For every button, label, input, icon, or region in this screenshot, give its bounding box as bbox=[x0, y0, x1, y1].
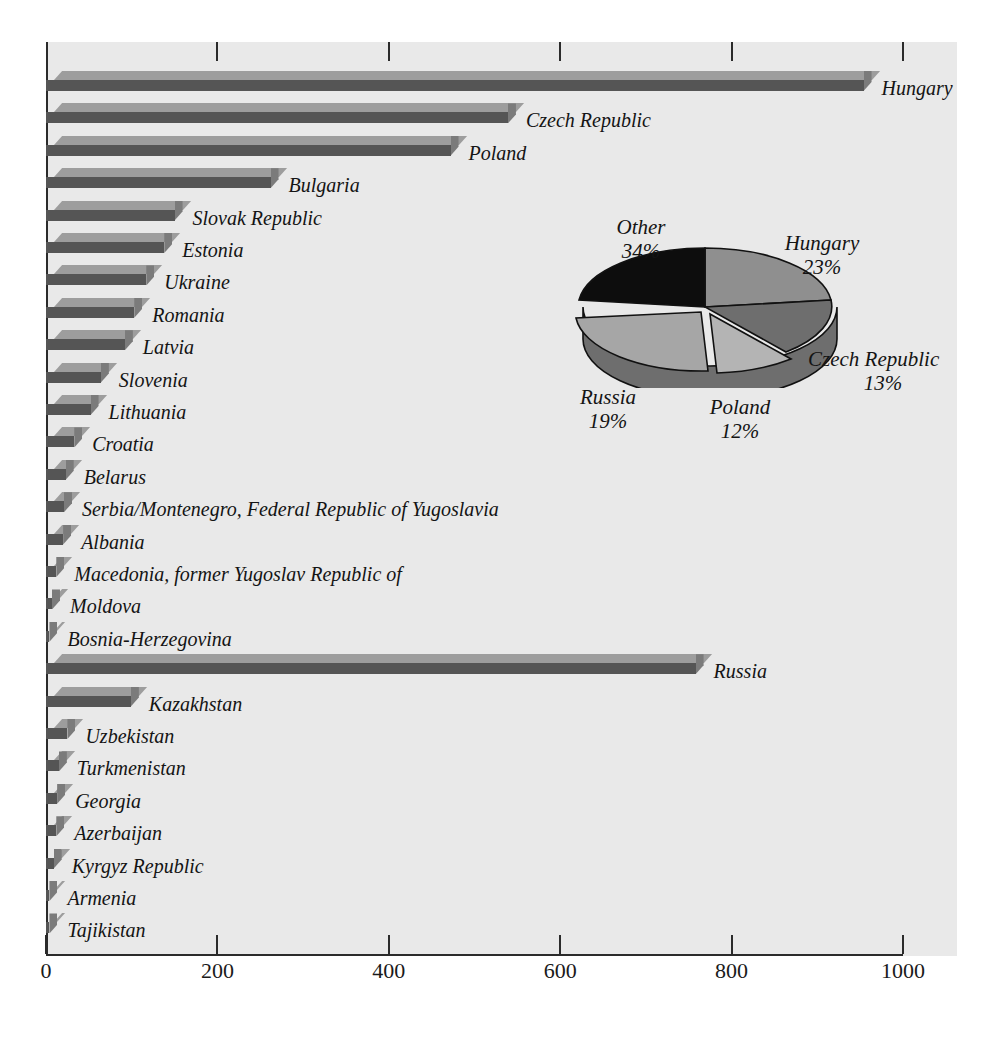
bar-kazakhstan bbox=[46, 687, 139, 707]
pie-label-hungary-name: Hungary bbox=[785, 231, 860, 255]
bar-label-latvia: Latvia bbox=[143, 336, 194, 359]
bar-front-face bbox=[46, 274, 146, 285]
bar-label-bulgaria: Bulgaria bbox=[289, 174, 360, 197]
x-tick-top-600 bbox=[559, 42, 561, 61]
bar-side-face bbox=[451, 136, 459, 156]
pie-label-hungary-pct: 23% bbox=[803, 255, 842, 279]
bar-russia bbox=[46, 654, 704, 674]
bar-side-face bbox=[696, 654, 704, 674]
bar-belarus bbox=[46, 460, 74, 480]
pie-label-other: Other 34% bbox=[586, 216, 696, 263]
pie-label-russia: Russia 19% bbox=[548, 386, 668, 433]
bar-front-face bbox=[46, 307, 134, 318]
bar-front-face bbox=[46, 242, 164, 253]
bar-albania bbox=[46, 525, 71, 545]
bar-front-face bbox=[46, 566, 56, 577]
bar-label-tajikistan: Tajikistan bbox=[67, 919, 145, 942]
bar-side-face bbox=[101, 363, 109, 383]
bar-label-slovenia: Slovenia bbox=[119, 369, 188, 392]
pie-label-poland: Poland 12% bbox=[680, 396, 800, 443]
bar-front-face bbox=[46, 825, 56, 836]
bar-bosnia-herzegovina bbox=[46, 622, 57, 642]
bar-side-face bbox=[175, 201, 183, 221]
bar-front-face bbox=[46, 210, 175, 221]
bar-front-face bbox=[46, 890, 49, 901]
pie-label-russia-pct: 19% bbox=[589, 409, 628, 433]
bar-front-face bbox=[46, 501, 64, 512]
x-tick-bottom-600 bbox=[559, 935, 561, 954]
bar-serbia-montenegro-federal-republic-of-yugoslavia bbox=[46, 492, 72, 512]
bar-label-macedonia-former-yugoslav-republic-of: Macedonia, former Yugoslav Republic of bbox=[74, 563, 402, 586]
bar-top-face bbox=[54, 654, 712, 663]
bar-side-face bbox=[49, 881, 57, 901]
x-tick-top-1000 bbox=[902, 42, 904, 61]
x-tick-label-800: 800 bbox=[715, 958, 748, 984]
bar-side-face bbox=[49, 913, 57, 933]
bar-moldova bbox=[46, 589, 60, 609]
bar-top-face bbox=[54, 168, 287, 177]
pie-label-poland-pct: 12% bbox=[721, 419, 760, 443]
bar-front-face bbox=[46, 80, 864, 91]
x-tick-top-800 bbox=[731, 42, 733, 61]
bar-side-face bbox=[146, 265, 154, 285]
x-axis-line bbox=[46, 954, 903, 956]
bar-macedonia-former-yugoslav-republic-of bbox=[46, 557, 64, 577]
bar-top-face bbox=[54, 103, 524, 112]
bar-front-face bbox=[46, 922, 49, 933]
bar-front-face bbox=[46, 177, 271, 188]
bar-front-face bbox=[46, 404, 91, 415]
bar-estonia bbox=[46, 233, 172, 253]
bar-side-face bbox=[67, 719, 75, 739]
bar-croatia bbox=[46, 427, 82, 447]
pie-label-czech-pct: 13% bbox=[808, 372, 958, 396]
bar-label-belarus: Belarus bbox=[84, 466, 146, 489]
bar-georgia bbox=[46, 784, 65, 804]
bar-top-face bbox=[54, 71, 880, 80]
pie-label-hungary: Hungary 23% bbox=[762, 232, 882, 279]
pie-label-other-pct: 34% bbox=[622, 239, 661, 263]
bar-side-face bbox=[59, 751, 67, 771]
bar-side-face bbox=[49, 622, 57, 642]
x-tick-top-400 bbox=[388, 42, 390, 61]
bar-uzbekistan bbox=[46, 719, 75, 739]
bar-side-face bbox=[66, 460, 74, 480]
bar-label-slovak-republic: Slovak Republic bbox=[193, 207, 322, 230]
chart-root: 02004006008001000 HungaryCzech RepublicP… bbox=[0, 0, 990, 1039]
bar-azerbaijan bbox=[46, 816, 64, 836]
bar-side-face bbox=[54, 849, 62, 869]
bar-lithuania bbox=[46, 395, 99, 415]
bar-front-face bbox=[46, 858, 54, 869]
bar-side-face bbox=[271, 168, 279, 188]
bar-label-bosnia-herzegovina: Bosnia-Herzegovina bbox=[67, 628, 231, 651]
bar-label-croatia: Croatia bbox=[92, 433, 154, 456]
bar-side-face bbox=[91, 395, 99, 415]
bar-czech-republic bbox=[46, 103, 516, 123]
bar-top-face bbox=[54, 233, 180, 242]
x-tick-label-400: 400 bbox=[372, 958, 405, 984]
bar-slovenia bbox=[46, 363, 109, 383]
bar-top-face bbox=[54, 395, 107, 404]
bar-label-poland: Poland bbox=[469, 142, 527, 165]
bar-side-face bbox=[64, 492, 72, 512]
bar-front-face bbox=[46, 436, 74, 447]
bar-side-face bbox=[74, 427, 82, 447]
bar-side-face bbox=[508, 103, 516, 123]
bar-turkmenistan bbox=[46, 751, 67, 771]
bar-side-face bbox=[57, 784, 65, 804]
bar-poland bbox=[46, 136, 459, 156]
bar-side-face bbox=[134, 298, 142, 318]
x-tick-label-200: 200 bbox=[201, 958, 234, 984]
bar-label-lithuania: Lithuania bbox=[109, 401, 187, 424]
bar-side-face bbox=[52, 589, 60, 609]
bar-slovak-republic bbox=[46, 201, 183, 221]
bar-label-albania: Albania bbox=[81, 531, 144, 554]
x-tick-bottom-400 bbox=[388, 935, 390, 954]
bar-kyrgyz-republic bbox=[46, 849, 62, 869]
bar-front-face bbox=[46, 793, 57, 804]
pie-label-poland-name: Poland bbox=[710, 395, 771, 419]
bar-ukraine bbox=[46, 265, 154, 285]
bar-front-face bbox=[46, 598, 52, 609]
bar-side-face bbox=[864, 71, 872, 91]
bar-front-face bbox=[46, 469, 66, 480]
pie-label-other-name: Other bbox=[617, 215, 666, 239]
